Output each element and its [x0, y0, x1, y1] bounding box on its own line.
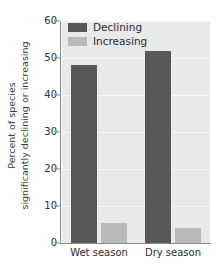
- y-axis-tick-mark: [54, 168, 60, 169]
- y-axis-tick-mark: [54, 57, 60, 58]
- y-axis-tick-mark: [54, 94, 60, 95]
- x-axis-tick-label: Dry season: [145, 247, 201, 259]
- legend-label-declining: Declining: [93, 22, 142, 33]
- legend-swatch-declining: [68, 23, 87, 32]
- legend-label-increasing: Increasing: [93, 36, 147, 47]
- y-axis-title-line-2: significantly declining or increasing: [18, 41, 31, 209]
- y-axis-tick-marks: [54, 0, 61, 272]
- y-axis-title-line-1: Percent of species: [6, 41, 19, 209]
- bar-declining-wet-season: [71, 65, 97, 243]
- legend-item-declining: Declining: [68, 22, 147, 33]
- bar-declining-dry-season: [145, 51, 171, 243]
- plot-area: [62, 21, 210, 243]
- bar-increasing-wet-season: [101, 223, 127, 243]
- x-axis-line: [60, 243, 211, 244]
- legend: DecliningIncreasing: [68, 22, 147, 47]
- bar-chart-figure: Percent of species significantly declini…: [0, 0, 223, 272]
- y-axis-tick-mark: [54, 205, 60, 206]
- bar-increasing-dry-season: [175, 228, 201, 243]
- y-axis-tick-mark: [54, 131, 60, 132]
- legend-item-increasing: Increasing: [68, 36, 147, 47]
- x-axis-tick-label: Wet season: [70, 247, 128, 259]
- legend-swatch-increasing: [68, 37, 87, 46]
- y-axis-tick-mark: [54, 20, 60, 21]
- x-axis-tick-labels: Wet seasonDry season: [62, 247, 210, 267]
- y-axis-title: Percent of species significantly declini…: [0, 0, 36, 250]
- bars-layer: [62, 21, 210, 243]
